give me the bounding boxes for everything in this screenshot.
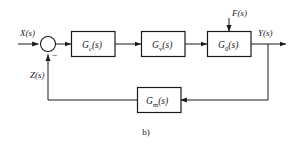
block-controller-label: Gc(s) <box>82 40 102 52</box>
diagram-canvas: − Gc(s) Gv(s) G0(s) Gm(s) <box>0 0 293 146</box>
summing-junction-negative-sign: − <box>52 50 57 60</box>
block-plant[interactable]: G0(s) <box>208 32 252 57</box>
block-measurement[interactable]: Gm(s) <box>138 88 182 113</box>
block-diagram-figure: − Gc(s) Gv(s) G0(s) Gm(s) <box>0 0 293 146</box>
block-plant-label: G0(s) <box>218 40 238 52</box>
figure-caption: b) <box>142 127 150 137</box>
block-actuator[interactable]: Gv(s) <box>142 32 186 57</box>
signal-label-feedback: Z(s) <box>30 70 45 80</box>
signal-label-disturbance: F(s) <box>231 8 247 18</box>
block-actuator-label: Gv(s) <box>152 40 172 52</box>
signal-label-output: Y(s) <box>258 28 273 38</box>
signal-label-input: X(s) <box>19 28 35 38</box>
block-controller[interactable]: Gc(s) <box>72 32 116 57</box>
